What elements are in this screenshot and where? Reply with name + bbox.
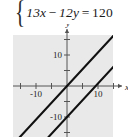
equation-operator: −	[46, 5, 59, 20]
equation-line: { 13x−12y=120	[0, 0, 128, 26]
equation-right-term: 12y	[59, 5, 79, 20]
equation-value: 120	[92, 5, 113, 20]
y-axis-arrowhead	[65, 29, 69, 33]
figure-root: { 13x−12y=120 -101010-10 x y	[0, 0, 128, 137]
graph-panel: -101010-10 x y	[0, 24, 128, 137]
y-tick-label-10: 10	[53, 50, 63, 60]
system-brace: {	[15, 2, 25, 23]
coordinate-plane: -101010-10 x y	[0, 24, 128, 137]
equation-left-term: 13x	[26, 5, 46, 20]
equation-equals: =	[79, 5, 92, 20]
y-axis-label: y	[65, 24, 70, 28]
equation-text: 13x−12y=120	[26, 5, 113, 21]
y-tick-label--10: -10	[50, 112, 62, 122]
x-tick-label--10: -10	[30, 89, 42, 99]
x-axis-arrowhead	[118, 84, 122, 88]
x-axis-label: x	[124, 82, 128, 92]
x-tick-label-10: 10	[94, 89, 104, 99]
